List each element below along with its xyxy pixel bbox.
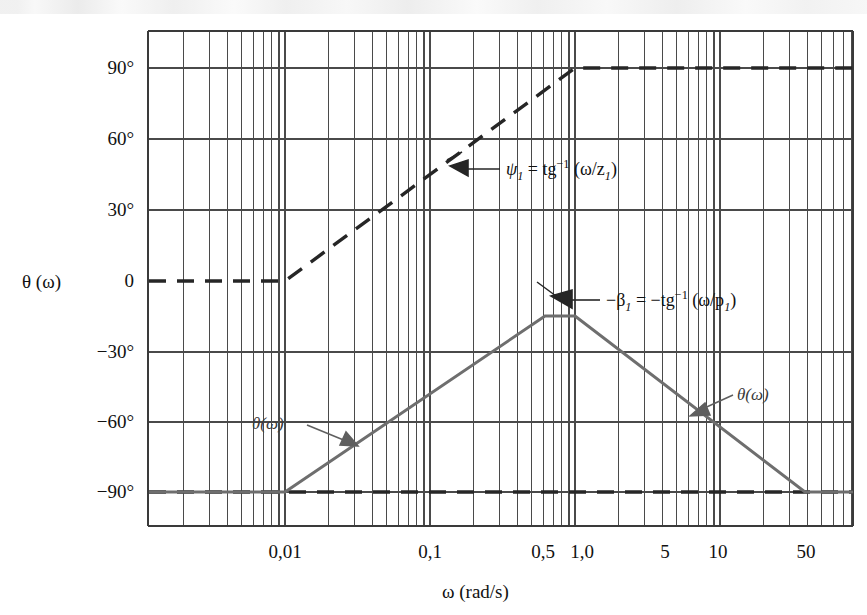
x-tick-1.0: 1,0 [546, 542, 618, 561]
theta-label-right: θ(ω) [737, 386, 769, 403]
x-tick-10: 10 [694, 542, 742, 561]
psi-annotation: ψ1 = tg−1 (ω/z1) [506, 158, 617, 182]
x-axis-title: ω (rad/s) [442, 582, 509, 601]
theta-label-left: θ(ω) [252, 415, 284, 432]
bode-phase-plot [0, 0, 867, 615]
beta-annotation: −β1 = −tg−1 (ω/p1) [606, 289, 736, 313]
x-tick-50: 50 [782, 542, 830, 561]
y-tick-0: 0 [62, 271, 134, 290]
y-tick-minus60: −60° [54, 412, 134, 431]
y-tick-90: 90° [62, 58, 134, 77]
x-tick-5: 5 [645, 542, 685, 561]
y-tick-60: 60° [62, 129, 134, 148]
y-tick-30: 30° [62, 200, 134, 219]
y-tick-minus30: −30° [54, 342, 134, 361]
x-tick-0.01: 0,01 [245, 542, 325, 561]
y-axis-title: θ (ω) [22, 272, 61, 291]
y-tick-minus90: −90° [54, 482, 134, 501]
x-tick-0.1: 0,1 [394, 542, 466, 561]
figure-canvas: θ (ω) ω (rad/s) 90° 60° 30° 0 −30° −60° … [0, 0, 867, 615]
